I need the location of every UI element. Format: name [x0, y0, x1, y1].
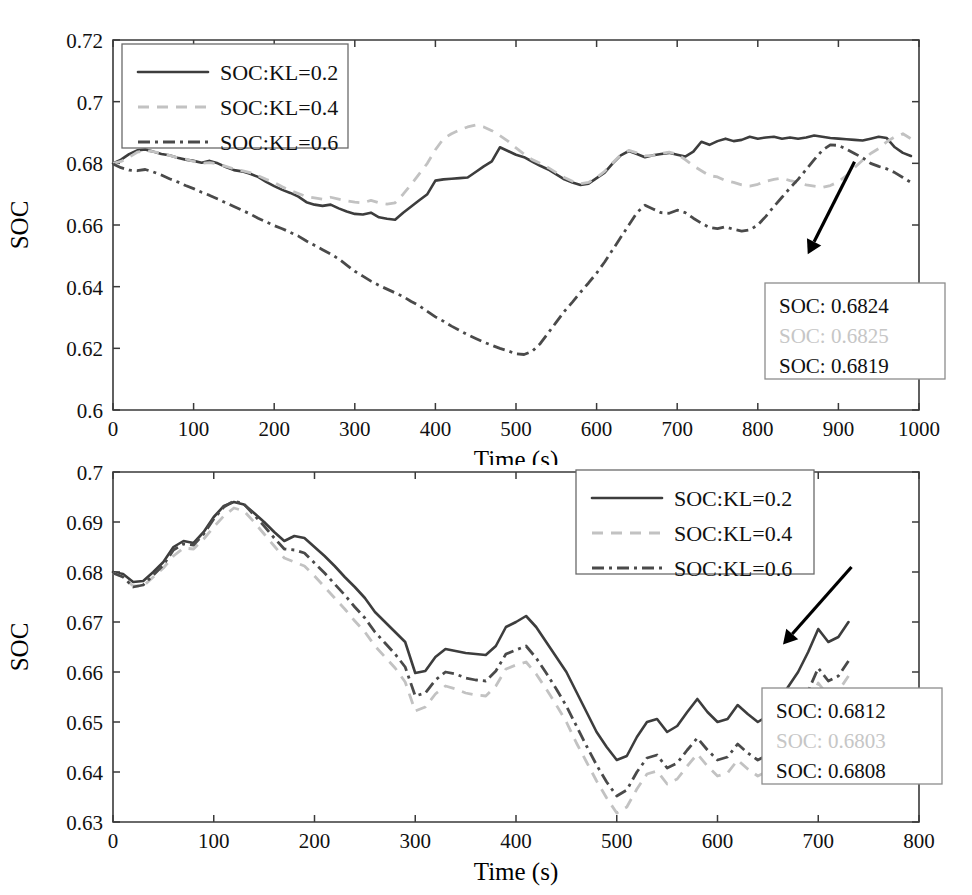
x-tick-label: 500 [601, 829, 633, 853]
x-tick-label: 600 [702, 829, 734, 853]
annotation-line-3: SOC: 0.6819 [779, 354, 889, 378]
legend-label-1: SOC:KL=0.2 [220, 60, 338, 85]
x-tick-label: 400 [500, 829, 532, 853]
legend-label-1: SOC:KL=0.2 [674, 486, 792, 511]
chart-svg-top: SOC:KL=0.2SOC:KL=0.4SOC:KL=0.6 SOC: 0.68… [0, 0, 972, 465]
x-tick-label: 700 [661, 417, 693, 441]
y-tick-label: 0.64 [66, 276, 103, 300]
annotation-bottom: SOC: 0.6812SOC: 0.6803SOC: 0.6808 [762, 567, 942, 784]
x-tick-label: 600 [581, 417, 613, 441]
chart-panel-bottom: SOC:KL=0.2SOC:KL=0.4SOC:KL=0.6 SOC: 0.68… [0, 440, 972, 895]
figure-container: SOC:KL=0.2SOC:KL=0.4SOC:KL=0.6 SOC: 0.68… [0, 0, 972, 895]
annotation-line-2: SOC: 0.6825 [779, 324, 889, 348]
annotation-top: SOC: 0.6824SOC: 0.6825SOC: 0.6819 [765, 162, 945, 379]
annotation-arrow [792, 567, 851, 634]
x-tick-label: 500 [500, 417, 532, 441]
y-tick-label: 0.65 [66, 711, 103, 735]
legend-top[interactable]: SOC:KL=0.2SOC:KL=0.4SOC:KL=0.6 [122, 44, 348, 155]
x-tick-label: 400 [420, 417, 452, 441]
y-tick-label: 0.68 [66, 152, 103, 176]
y-tick-label: 0.66 [66, 214, 103, 238]
x-axis-title: Time (s) [474, 858, 559, 886]
chart-svg-bottom: SOC:KL=0.2SOC:KL=0.4SOC:KL=0.6 SOC: 0.68… [0, 440, 972, 895]
y-tick-label: 0.67 [66, 611, 103, 635]
x-tick-label: 800 [742, 417, 774, 441]
legend-label-2: SOC:KL=0.4 [674, 521, 792, 546]
y-axis-title: SOC [6, 201, 33, 250]
y-tick-label: 0.6 [77, 399, 103, 423]
x-tick-label: 1000 [898, 417, 940, 441]
x-tick-label: 0 [108, 417, 119, 441]
y-tick-label: 0.72 [66, 29, 103, 53]
y-tick-label: 0.63 [66, 811, 103, 835]
y-tick-label: 0.68 [66, 561, 103, 585]
x-tick-label: 200 [258, 417, 290, 441]
chart-panel-top: SOC:KL=0.2SOC:KL=0.4SOC:KL=0.6 SOC: 0.68… [0, 0, 972, 465]
y-axis-title: SOC [6, 623, 33, 672]
x-tick-label: 100 [198, 829, 230, 853]
x-tick-label: 300 [400, 829, 432, 853]
legend-label-3: SOC:KL=0.6 [220, 130, 338, 155]
x-tick-label: 800 [903, 829, 935, 853]
y-tick-label: 0.64 [66, 761, 103, 785]
y-tick-label: 0.69 [66, 511, 103, 535]
y-tick-label: 0.7 [77, 91, 103, 115]
annotation-line-1: SOC: 0.6824 [779, 294, 889, 318]
legend-bottom[interactable]: SOC:KL=0.2SOC:KL=0.4SOC:KL=0.6 [576, 470, 814, 581]
annotation-line-3: SOC: 0.6808 [776, 759, 886, 783]
y-tick-label: 0.66 [66, 661, 103, 685]
x-tick-label: 100 [178, 417, 210, 441]
y-tick-label: 0.7 [77, 461, 103, 485]
legend-label-2: SOC:KL=0.4 [220, 95, 338, 120]
legend-label-3: SOC:KL=0.6 [674, 556, 792, 581]
x-tick-label: 0 [108, 829, 119, 853]
x-tick-label: 700 [803, 829, 835, 853]
annotation-arrow [814, 162, 854, 242]
x-tick-label: 900 [823, 417, 855, 441]
annotation-line-2: SOC: 0.6803 [776, 729, 886, 753]
y-tick-label: 0.62 [66, 337, 103, 361]
annotation-line-1: SOC: 0.6812 [776, 699, 886, 723]
x-tick-label: 200 [299, 829, 331, 853]
x-tick-label: 300 [339, 417, 371, 441]
